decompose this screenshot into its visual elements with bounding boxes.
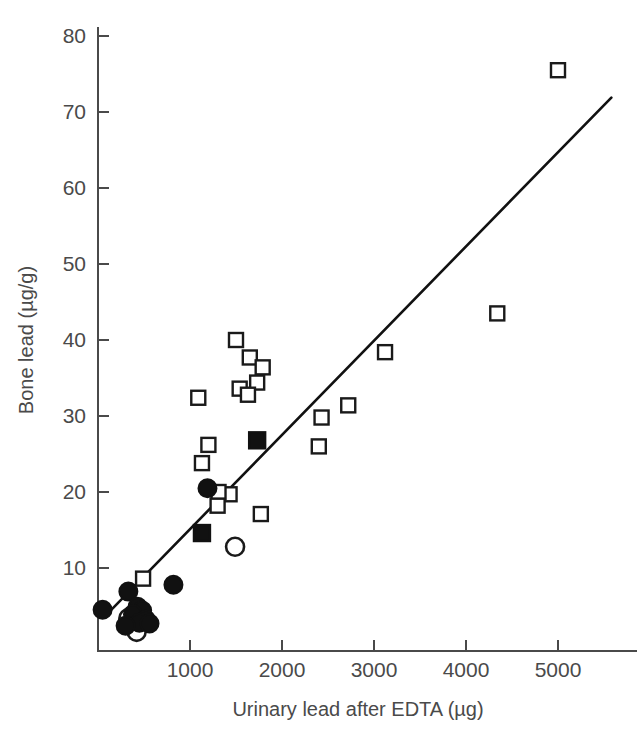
x-tick-label: 2000: [259, 658, 306, 681]
regression-line: [109, 98, 611, 613]
data-point-filled-circle: [198, 479, 216, 497]
data-point-open-square: [211, 499, 225, 513]
axis-lines: [98, 28, 636, 651]
y-axis-ticks: 1020304050607080: [63, 24, 109, 579]
y-tick-label: 60: [63, 176, 86, 199]
y-tick-label: 70: [63, 100, 86, 123]
data-point-open-square: [229, 333, 243, 347]
data-point-filled-circle: [141, 614, 159, 632]
data-point-open-square: [195, 456, 209, 470]
data-point-open-square: [201, 438, 215, 452]
data-point-filled-circle: [94, 601, 112, 619]
x-axis-ticks: 10002000300040005000: [167, 640, 582, 681]
data-point-open-square: [136, 572, 150, 586]
data-point-open-square: [312, 439, 326, 453]
data-point-open-square: [490, 306, 504, 320]
plot-canvas: 1020304050607080 10002000300040005000 Ur…: [0, 0, 642, 748]
data-point-open-circle: [226, 538, 244, 556]
data-point-filled-circle: [117, 617, 135, 635]
data-point-open-square: [254, 507, 268, 521]
regression-line-segment: [109, 98, 611, 613]
y-tick-label: 40: [63, 328, 86, 351]
x-tick-label: 4000: [443, 658, 490, 681]
x-tick-label: 3000: [351, 658, 398, 681]
x-tick-label: 5000: [535, 658, 582, 681]
series-filled-circle-markers: [94, 479, 217, 635]
data-point-filled-circle: [164, 576, 182, 594]
y-tick-label: 80: [63, 24, 86, 47]
series-open-square-markers: [136, 63, 565, 585]
y-tick-label: 30: [63, 404, 86, 427]
y-tick-label: 10: [63, 556, 86, 579]
y-tick-label: 50: [63, 252, 86, 275]
scatter-plot-figure: 1020304050607080 10002000300040005000 Ur…: [0, 0, 642, 748]
y-axis-title: Bone lead (µg/g): [15, 266, 37, 414]
data-point-open-square: [341, 398, 355, 412]
data-point-filled-square: [194, 525, 210, 541]
x-axis-title: Urinary lead after EDTA (µg): [232, 698, 483, 720]
data-point-open-square: [551, 63, 565, 77]
data-point-open-square: [191, 391, 205, 405]
data-point-open-square: [378, 345, 392, 359]
data-point-open-square: [256, 360, 270, 374]
y-tick-label: 20: [63, 480, 86, 503]
data-point-filled-square: [249, 432, 265, 448]
data-point-open-square: [315, 411, 329, 425]
data-point-open-square: [241, 388, 255, 402]
x-tick-label: 1000: [167, 658, 214, 681]
